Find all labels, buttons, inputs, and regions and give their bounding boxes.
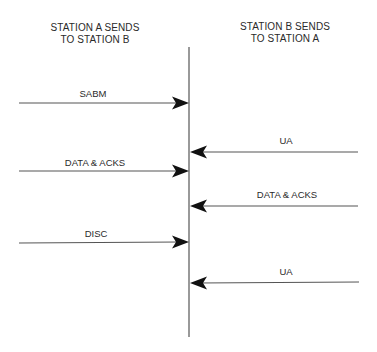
message-sabm: SABM (19, 88, 189, 110)
message-data-acks-a: DATA & ACKS (19, 157, 189, 178)
message-label: DATA & ACKS (257, 189, 317, 200)
message-label: UA (279, 266, 293, 277)
arrow-shaft (19, 242, 180, 243)
arrow-shaft (198, 282, 359, 283)
message-label: UA (279, 135, 293, 146)
message-label: DISC (85, 228, 108, 239)
message-ua-2: UA (190, 266, 359, 290)
message-data-acks-b: DATA & ACKS (190, 189, 358, 213)
message-disc: DISC (19, 228, 189, 249)
message-ua-1: UA (190, 135, 358, 159)
message-label: SABM (80, 88, 107, 99)
message-label: DATA & ACKS (65, 157, 125, 168)
sequence-diagram: SABM UA DATA & ACKS DATA & ACKS DISC UA (0, 0, 377, 352)
